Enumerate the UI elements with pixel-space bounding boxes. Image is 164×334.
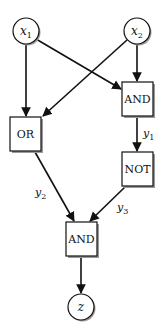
edge-x1-to-and-top <box>36 39 121 89</box>
gate-and-top: AND <box>122 82 155 118</box>
node-x1: x1 <box>13 18 41 46</box>
edge-label-y1: y1 <box>142 127 154 142</box>
node-x2: x2 <box>124 18 152 46</box>
edge-label-y3: y3 <box>116 201 128 216</box>
svg-text:NOT: NOT <box>125 163 152 176</box>
gate-not: NOT <box>122 152 155 188</box>
logic-circuit-diagram: y1 y2 y3 x1 x2 AND OR NOT AND z <box>0 0 164 334</box>
svg-text:AND: AND <box>67 233 95 246</box>
svg-text:AND: AND <box>123 93 151 106</box>
node-z: z <box>68 294 96 322</box>
gate-or: OR <box>10 117 43 153</box>
svg-text:OR: OR <box>17 128 35 141</box>
svg-text:z: z <box>77 300 85 314</box>
edge-label-y2: y2 <box>34 186 46 201</box>
gate-and-bottom: AND <box>66 222 99 258</box>
